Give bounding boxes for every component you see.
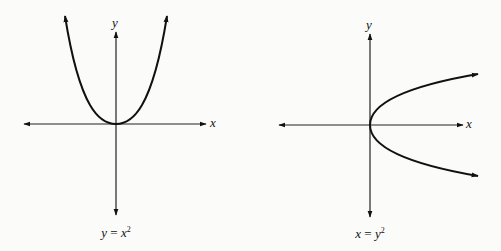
left-y-axis-label: y [112,16,118,29]
right-x-axis-label: x [466,117,472,130]
left-caption-eq: = [107,225,121,240]
parabola-figure: y x y = x2 y x x = y2 [0,0,501,251]
right-caption-exponent: 2 [381,226,385,235]
left-graph [24,16,206,215]
right-graph [279,34,478,217]
right-caption-eq: = [361,226,375,241]
graphs-canvas [0,0,501,251]
left-x-axis-label: x [210,116,216,129]
right-y-axis-label: y [366,18,372,31]
right-equation-caption: x = y2 [355,227,384,240]
left-equation-caption: y = x2 [101,226,130,239]
left-caption-exponent: 2 [127,225,131,234]
